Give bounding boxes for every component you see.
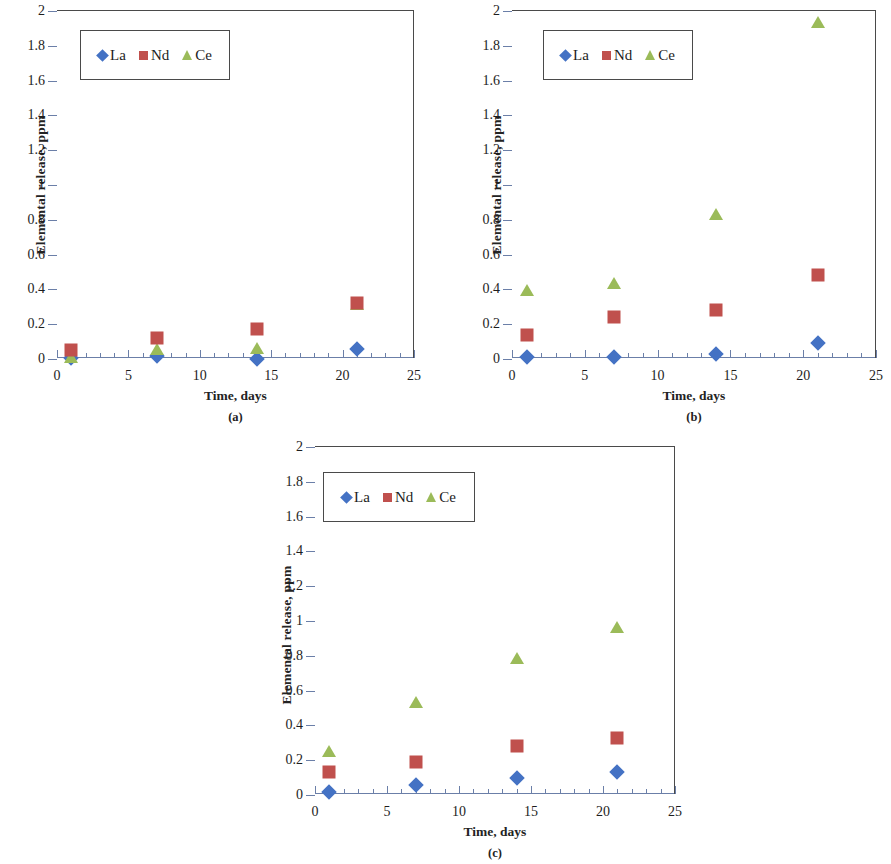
diamond-marker: [340, 491, 353, 504]
x-tick-label: 20: [796, 368, 810, 384]
x-tick-minor: [502, 789, 503, 794]
legend-entry-ce: Ce: [426, 490, 456, 505]
x-tick-minor: [574, 789, 575, 794]
x-tick-minor: [328, 353, 329, 358]
legend-label: La: [110, 48, 126, 63]
x-tick-minor: [228, 353, 229, 358]
x-tick-label: 5: [125, 368, 132, 384]
data-point-nd: [709, 304, 722, 317]
y-tick: [503, 289, 512, 290]
y-tick: [503, 150, 512, 151]
x-axis-title: Time, days: [512, 388, 876, 404]
data-point-ce: [811, 16, 825, 28]
data-point-ce: [322, 745, 336, 757]
y-tick-label: 0.6: [28, 246, 46, 262]
y-tick: [48, 46, 57, 47]
data-point-nd: [65, 344, 78, 357]
legend-entry-nd: Nd: [602, 48, 632, 63]
y-tick: [503, 324, 512, 325]
x-tick-major: [459, 786, 460, 794]
data-point-nd: [607, 311, 620, 324]
data-point-la: [410, 779, 421, 790]
chart-panel-c: Elemental release, ppm 00.20.40.60.811.2…: [230, 430, 690, 864]
x-tick-major: [658, 350, 659, 358]
x-tick-label: 5: [384, 804, 391, 820]
data-point-la: [511, 772, 522, 783]
x-axis-line: [512, 357, 875, 358]
x-tick-minor: [285, 353, 286, 358]
y-tick: [48, 289, 57, 290]
triangle-marker: [426, 492, 436, 502]
data-point-ce: [607, 277, 621, 289]
x-tick-minor: [541, 353, 542, 358]
x-tick-label: 20: [596, 804, 610, 820]
x-tick-label: 15: [723, 368, 737, 384]
x-tick-minor: [86, 353, 87, 358]
y-tick-label: 1.4: [483, 107, 501, 123]
legend-label: Nd: [151, 48, 169, 63]
x-tick-major: [200, 350, 201, 358]
data-point-ce: [150, 343, 164, 355]
x-tick-label: 25: [407, 368, 421, 384]
y-tick-label: 0: [38, 351, 45, 367]
y-tick: [503, 255, 512, 256]
y-tick-label: 1.2: [286, 578, 304, 594]
x-axis-title: Time, days: [315, 824, 675, 840]
x-tick-minor: [373, 789, 374, 794]
square-marker: [602, 51, 611, 60]
y-tick-label: 1.6: [28, 72, 46, 88]
chart-panel-b: Elemental release, ppm 00.20.40.60.811.2…: [450, 0, 891, 430]
y-tick: [48, 255, 57, 256]
x-axis-title: Time, days: [57, 388, 414, 404]
x-tick-label: 25: [869, 368, 883, 384]
y-tick-label: 1.8: [286, 473, 304, 489]
x-tick-minor: [473, 789, 474, 794]
y-tick: [48, 185, 57, 186]
panel-caption-c: (c): [315, 846, 675, 861]
legend-entry-ce: Ce: [645, 48, 675, 63]
data-point-nd: [409, 755, 422, 768]
y-tick: [306, 482, 315, 483]
x-tick-label: 20: [336, 368, 350, 384]
x-tick-major: [730, 350, 731, 358]
y-tick: [503, 220, 512, 221]
x-tick-major: [414, 350, 415, 358]
data-point-la: [521, 352, 532, 363]
y-tick: [48, 115, 57, 116]
x-tick-label: 10: [651, 368, 665, 384]
y-tick: [48, 359, 57, 360]
legend-c: LaNdCe: [323, 472, 475, 522]
x-tick-minor: [701, 353, 702, 358]
y-tick: [503, 46, 512, 47]
y-tick: [48, 81, 57, 82]
x-tick-minor: [687, 353, 688, 358]
x-tick-minor: [789, 353, 790, 358]
y-tick-label: 0.6: [286, 682, 304, 698]
data-point-la: [612, 767, 623, 778]
x-tick-minor: [832, 353, 833, 358]
x-tick-major: [675, 786, 676, 794]
data-point-la: [812, 338, 823, 349]
x-tick-label: 15: [524, 804, 538, 820]
x-tick-minor: [570, 353, 571, 358]
x-tick-label: 0: [509, 368, 516, 384]
y-tick: [306, 517, 315, 518]
legend-label: Ce: [195, 48, 212, 63]
y-tick: [306, 621, 315, 622]
y-tick-label: 2: [493, 3, 500, 19]
x-tick-minor: [300, 353, 301, 358]
x-tick-label: 0: [54, 368, 61, 384]
y-tick: [503, 359, 512, 360]
x-tick-major: [57, 350, 58, 358]
y-tick: [306, 447, 315, 448]
legend-label: La: [354, 490, 370, 505]
y-tick-label: 0.4: [286, 717, 304, 733]
data-point-ce: [520, 284, 534, 296]
x-tick-minor: [760, 353, 761, 358]
data-point-la: [608, 352, 619, 363]
x-tick-major: [128, 350, 129, 358]
data-point-ce: [510, 652, 524, 664]
y-tick-label: 1.4: [28, 107, 46, 123]
legend-entry-nd: Nd: [139, 48, 169, 63]
figure-root: Elemental release, ppm 00.20.40.60.811.2…: [0, 0, 891, 864]
